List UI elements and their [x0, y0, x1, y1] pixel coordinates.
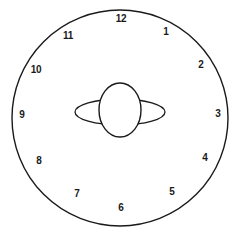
clock-numeral-6: 6 [118, 203, 123, 213]
clock-numeral-3: 3 [215, 109, 220, 119]
clock-numeral-8: 8 [36, 156, 41, 166]
clock-numeral-10: 10 [31, 65, 42, 75]
clock-vector-layer [0, 0, 242, 230]
clock-numeral-11: 11 [63, 31, 73, 41]
clock-drawing-canvas: 121234567891011 [0, 0, 242, 230]
clock-numeral-1: 1 [163, 27, 168, 37]
clock-numeral-2: 2 [198, 60, 203, 70]
clock-numeral-4: 4 [202, 153, 207, 163]
clock-hand-vertical-ellipse [99, 83, 141, 137]
clock-numeral-5: 5 [169, 187, 174, 197]
clock-numeral-9: 9 [19, 110, 24, 120]
clock-numeral-12: 12 [116, 14, 127, 24]
clock-numeral-7: 7 [74, 189, 79, 199]
